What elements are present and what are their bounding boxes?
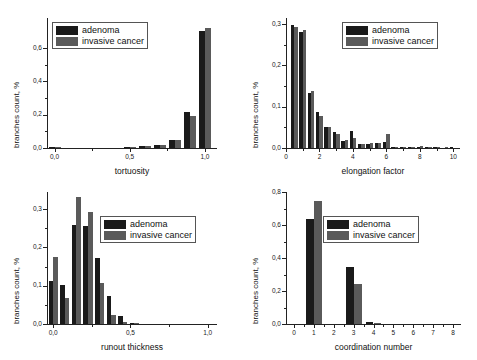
y-axis-title: branches count, % (251, 82, 260, 148)
x-axis-title: tortuosity (47, 166, 217, 176)
bar (354, 284, 362, 324)
bar (411, 147, 414, 148)
bar (437, 147, 440, 148)
chart-panel-coordination-number: 0123456780,00,20,40,60,8coordination num… (239, 180, 477, 360)
y-axis-title: branches count, % (251, 258, 260, 324)
bar (374, 323, 382, 324)
bar (190, 116, 196, 148)
legend-swatch-invasive-cancer (346, 37, 368, 46)
chart-legend: adenoma invasive cancer (100, 216, 196, 243)
bar (314, 201, 322, 324)
bar (346, 267, 354, 324)
bar (111, 315, 116, 324)
legend-label-adenoma: adenoma (82, 26, 120, 35)
bar (130, 147, 136, 148)
x-axis-title: elongation factor (286, 166, 460, 176)
y-axis-title: branches count, % (12, 82, 21, 148)
chart-panel-runout-thickness: 0,00,51,00,00,10,20,3runout thicknessbra… (0, 180, 238, 360)
legend-swatch-adenoma (327, 220, 349, 229)
bar (123, 322, 128, 324)
bar (306, 219, 314, 324)
bar (76, 197, 81, 324)
bar (336, 134, 339, 148)
legend-item-invasive-cancer: invasive cancer (327, 230, 415, 240)
bar (65, 298, 70, 324)
x-axis-title: runout thickness (47, 342, 217, 352)
legend-label-invasive-cancer: invasive cancer (353, 231, 415, 240)
legend-label-invasive-cancer: invasive cancer (82, 37, 144, 46)
legend-swatch-adenoma (346, 26, 368, 35)
bar (311, 91, 314, 148)
bar (353, 138, 356, 148)
legend-swatch-invasive-cancer (104, 231, 126, 240)
bar (345, 140, 348, 148)
bar (366, 322, 374, 324)
chart-legend: adenoma invasive cancer (342, 22, 438, 49)
bar (450, 147, 453, 148)
bar (100, 283, 105, 324)
chart-legend: adenoma invasive cancer (323, 216, 419, 243)
bar (205, 28, 211, 148)
bar (160, 145, 166, 148)
y-axis-title: branches count, % (12, 258, 21, 324)
bar (378, 143, 381, 148)
legend-item-invasive-cancer: invasive cancer (56, 36, 144, 46)
legend-item-adenoma: adenoma (346, 25, 434, 35)
bar (428, 147, 431, 148)
legend-swatch-invasive-cancer (56, 37, 78, 46)
legend-item-invasive-cancer: invasive cancer (346, 36, 434, 46)
legend-label-invasive-cancer: invasive cancer (372, 37, 434, 46)
bar (370, 143, 373, 148)
bar (420, 146, 423, 148)
bar (361, 144, 364, 148)
bar (386, 134, 389, 148)
bar (445, 147, 448, 148)
legend-label-invasive-cancer: invasive cancer (130, 231, 192, 240)
figure-panel-grid: 0,00,51,00,00,20,40,6tortuositybranches … (0, 0, 477, 360)
legend-item-adenoma: adenoma (104, 219, 192, 229)
bar (55, 147, 61, 148)
bar (403, 147, 406, 148)
bar (395, 147, 398, 148)
legend-swatch-adenoma (56, 26, 78, 35)
legend-item-adenoma: adenoma (56, 25, 144, 35)
legend-label-adenoma: adenoma (130, 220, 168, 229)
bar (328, 127, 331, 148)
bar (175, 140, 181, 148)
bar (53, 257, 58, 324)
bar (134, 323, 139, 324)
bar-series-group (0, 180, 238, 360)
bar (145, 146, 151, 148)
legend-label-adenoma: adenoma (372, 26, 410, 35)
bar (303, 30, 306, 148)
bar (319, 116, 322, 148)
legend-swatch-invasive-cancer (327, 231, 349, 240)
chart-panel-tortuosity: 0,00,51,00,00,20,40,6tortuositybranches … (0, 0, 238, 180)
legend-item-adenoma: adenoma (327, 219, 415, 229)
legend-label-adenoma: adenoma (353, 220, 391, 229)
legend-item-invasive-cancer: invasive cancer (104, 230, 192, 240)
legend-swatch-adenoma (104, 220, 126, 229)
bar (88, 212, 93, 324)
x-axis-title: coordination number (286, 342, 461, 352)
bar-series-group (239, 180, 477, 360)
bar (294, 27, 297, 148)
chart-legend: adenoma invasive cancer (52, 22, 148, 49)
chart-panel-elongation-factor: 02468100,00,10,20,3elongation factorbran… (239, 0, 477, 180)
